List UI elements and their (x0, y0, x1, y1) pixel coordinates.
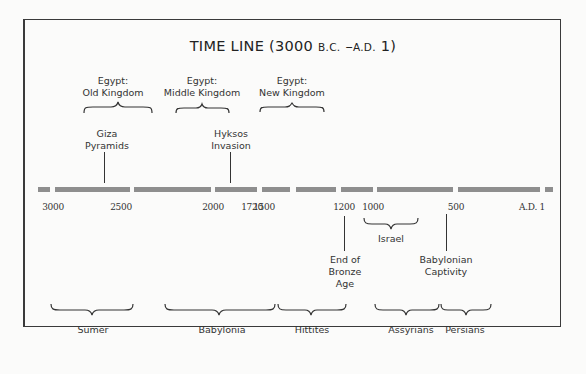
label-sumer: Sumer (77, 324, 108, 336)
label-israel: Israel (378, 233, 404, 245)
tick-ad-1: A.D. 1 (519, 202, 545, 212)
timeline-segment (377, 187, 453, 192)
tick-3000: 3000 (42, 202, 64, 212)
timeline-title: TIME LINE (3000 B.C. –A.D. 1) (0, 38, 586, 54)
timeline-segment (38, 187, 50, 192)
marker-end-of-bronze-age (344, 216, 345, 251)
label-egypt-old-kingdom: Egypt:Old Kingdom (82, 75, 143, 99)
tick-1000: 1000 (362, 202, 384, 212)
timeline-segment (262, 187, 290, 192)
brace-persians (440, 303, 492, 316)
tick-1720: 1720 (219, 202, 241, 212)
title-end: 1) (376, 38, 396, 54)
brace-egypt-middle-kingdom (175, 103, 230, 115)
timeline-segment (134, 187, 211, 192)
timeline-segment (296, 187, 336, 192)
tick-2500: 2500 (110, 202, 132, 212)
label-hyksos-invasion: HyksosInvasion (211, 128, 251, 152)
label-hittites: Hittites (295, 324, 329, 336)
brace-israel (363, 217, 419, 230)
timeline-segment (55, 187, 130, 192)
marker-hyksos-invasion (230, 152, 231, 183)
label-assyrians: Assyrians (388, 324, 433, 336)
brace-assyrians (374, 303, 440, 316)
tick-1200: 1200 (333, 202, 355, 212)
label-egypt-middle-kingdom: Egypt:Middle Kingdom (164, 75, 240, 99)
title-open: (3000 (269, 38, 318, 54)
label-end-of-bronze-age: End ofBronzeAge (329, 254, 362, 290)
timeline-segment (458, 187, 540, 192)
timeline-segment (545, 187, 553, 192)
brace-hittites (277, 303, 347, 316)
label-persians: Persians (445, 324, 485, 336)
label-giza-pyramids: GizaPyramids (85, 128, 129, 152)
title-ad: A.D. (353, 41, 376, 53)
brace-egypt-old-kingdom (83, 101, 153, 115)
tick-1500: 1500 (253, 202, 275, 212)
title-dash: – (340, 38, 352, 54)
marker-giza-pyramids (104, 152, 105, 183)
label-babylonian-captivity: BabylonianCaptivity (420, 254, 473, 278)
title-bc: B.C. (318, 41, 340, 53)
timeline-segment (215, 187, 257, 192)
title-main: TIME LINE (190, 38, 264, 54)
brace-egypt-new-kingdom (259, 102, 325, 114)
tick-500: 500 (448, 202, 464, 212)
brace-babylonia (164, 303, 276, 316)
timeline-segment (341, 187, 373, 192)
brace-sumer (50, 303, 134, 316)
marker-babylonian-captivity (446, 214, 447, 251)
label-babylonia: Babylonia (199, 324, 246, 336)
label-egypt-new-kingdom: Egypt:New Kingdom (259, 75, 325, 99)
